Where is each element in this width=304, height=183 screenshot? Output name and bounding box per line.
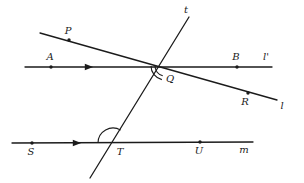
line-t-label: t: [184, 5, 188, 15]
point-p-dot: [67, 38, 70, 41]
line-l-label: l: [280, 101, 283, 111]
lines-group: [12, 17, 277, 178]
point-b-label: B: [232, 52, 239, 62]
point-r-label: R: [241, 97, 249, 107]
point-r-dot: [246, 91, 249, 94]
point-u-dot: [198, 140, 201, 143]
diagram-canvas: [0, 0, 304, 183]
parallel-arrow-l-prime: [85, 64, 93, 71]
point-a-dot: [49, 65, 52, 68]
point-b-dot: [235, 65, 238, 68]
point-u-label: U: [195, 146, 203, 156]
angle-arc-q-outer: [151, 66, 162, 80]
parallel-arrow-markers-group: [73, 64, 93, 147]
angle-arc-t: [98, 128, 121, 143]
point-q-label: Q: [166, 74, 174, 84]
line-m-label: m: [239, 145, 248, 155]
geometry-diagram: l'lmtPABQRSTU: [0, 0, 304, 183]
point-dots-group: [30, 38, 249, 144]
point-p-label: P: [65, 26, 72, 36]
point-a-label: A: [46, 52, 53, 62]
point-s-label: S: [28, 147, 35, 157]
line-l-prime-label: l': [263, 52, 269, 62]
parallel-arrow-m: [73, 140, 81, 147]
line-t: [90, 17, 189, 178]
line-m: [12, 142, 253, 143]
point-s-dot: [30, 141, 33, 144]
angle-arcs-group: [98, 66, 163, 143]
point-t-label: T: [117, 147, 124, 157]
